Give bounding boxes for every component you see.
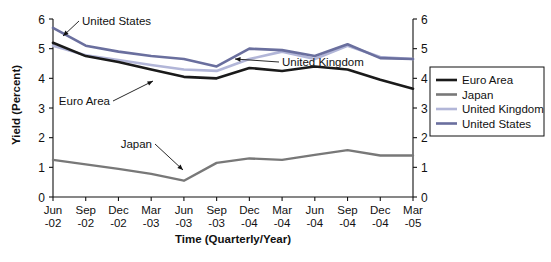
legend-label-japan: Japan — [462, 89, 493, 101]
x-axis-tick-label-year: -04 — [241, 217, 258, 229]
y-axis-title: Yield (Percent) — [10, 65, 22, 145]
x-axis-tick-label-month: Sep — [75, 204, 95, 216]
x-axis-tick-label-year: -02 — [110, 217, 127, 229]
x-axis-tick-label-year: -02 — [45, 217, 62, 229]
x-axis-title: Time (Quarterly/Year) — [175, 233, 291, 245]
x-axis-tick-label-month: Jun — [306, 204, 325, 216]
x-axis-tick-label-year: -02 — [77, 217, 94, 229]
y-axis-left-tick-label: 6 — [38, 13, 45, 27]
y-axis-left-tick-label: 5 — [38, 42, 45, 56]
y-axis-right-tick-label: 6 — [421, 13, 428, 27]
y-axis-right-tick-label: 0 — [421, 191, 428, 205]
x-axis-tick-label-month: Jun — [175, 204, 194, 216]
legend-label-united-kingdom: United Kingdom — [462, 103, 544, 115]
y-axis-left-tick-label: 2 — [38, 131, 45, 145]
x-axis-tick-label-month: Mar — [403, 204, 423, 216]
y-axis-left-tick-label: 0 — [38, 191, 45, 205]
chart-canvas: 0123456 0123456 Jun-02Sep-02Dec-02Mar-03… — [0, 0, 551, 262]
legend-label-united-states: United States — [462, 118, 531, 130]
x-axis-tick-label-year: -03 — [208, 217, 225, 229]
x-axis-tick-label-year: -04 — [307, 217, 324, 229]
y-axis-left-tick-label: 3 — [38, 102, 45, 116]
x-axis-tick-label-month: Jun — [44, 204, 63, 216]
x-axis-tick-label-month: Mar — [272, 204, 292, 216]
y-axis-left-tick-label: 4 — [38, 72, 45, 86]
x-axis-tick-label-year: -05 — [405, 217, 422, 229]
yield-chart-figure: 0123456 0123456 Jun-02Sep-02Dec-02Mar-03… — [0, 0, 551, 262]
y-axis-right-tick-label: 1 — [421, 161, 428, 175]
x-axis-tick-label-year: -04 — [274, 217, 291, 229]
x-axis-tick-label-year: -04 — [339, 217, 356, 229]
x-axis-tick-label-month: Sep — [337, 204, 357, 216]
y-axis-right-tick-label: 4 — [421, 72, 428, 86]
y-axis-right-tick-label: 2 — [421, 131, 428, 145]
x-axis-tick-label-year: -03 — [143, 217, 160, 229]
chart-legend: Euro AreaJapanUnited KingdomUnited State… — [430, 67, 544, 136]
y-axis-left-tick-label: 1 — [38, 161, 45, 175]
y-axis-right-tick-label: 5 — [421, 42, 428, 56]
x-axis-tick-label-month: Mar — [141, 204, 161, 216]
x-axis-tick-label-month: Dec — [239, 204, 260, 216]
annotation-label: United Kingdom — [282, 56, 364, 68]
x-axis-tick-label-month: Dec — [370, 204, 391, 216]
x-axis-tick-label-year: -03 — [176, 217, 193, 229]
annotation-label: United States — [82, 15, 151, 27]
annotation-label: Euro Area — [59, 95, 111, 107]
x-axis-title-text: Time (Quarterly/Year) — [175, 233, 291, 245]
annotation-label: Japan — [121, 138, 152, 150]
x-axis-tick-label-year: -04 — [372, 217, 389, 229]
legend-label-euro-area: Euro Area — [462, 74, 514, 86]
x-axis-tick-label-month: Sep — [206, 204, 226, 216]
x-axis-tick-label-month: Dec — [108, 204, 129, 216]
y-axis-title-text: Yield (Percent) — [10, 65, 22, 145]
y-axis-right-tick-label: 3 — [421, 102, 428, 116]
